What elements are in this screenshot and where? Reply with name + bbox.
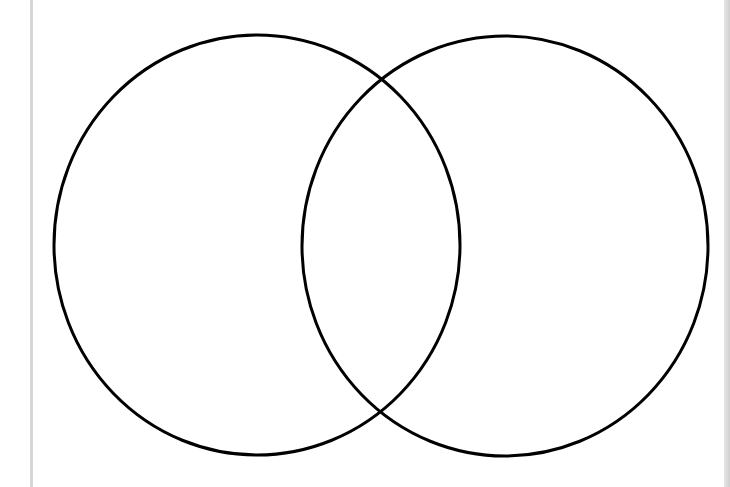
venn-diagram bbox=[0, 0, 730, 487]
venn-circle-right bbox=[302, 36, 708, 456]
venn-circle-left bbox=[54, 35, 460, 455]
